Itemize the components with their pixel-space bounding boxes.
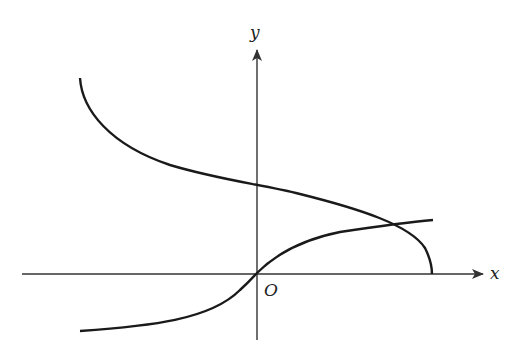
origin-label: O [264,280,278,300]
y-axis-label: y [250,22,260,42]
x-axis-label: x [490,263,500,283]
curve-decreasing [80,78,432,274]
graph-canvas [0,0,513,361]
